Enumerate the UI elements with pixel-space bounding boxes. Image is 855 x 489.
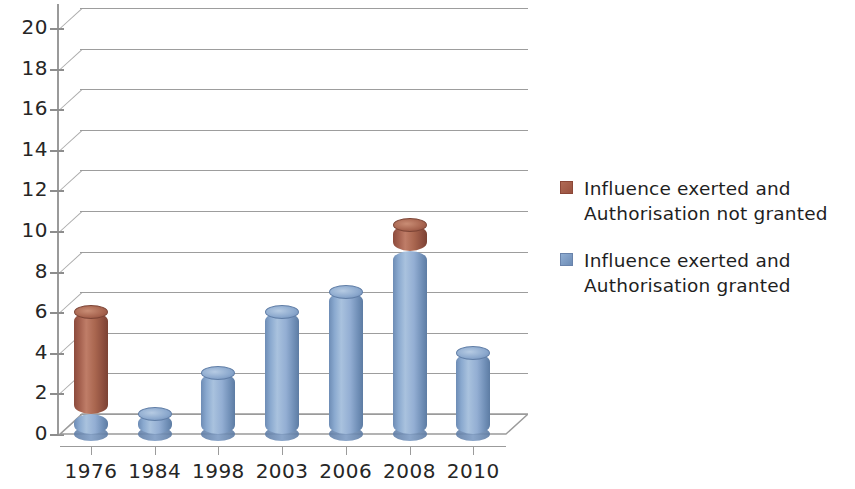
y-axis-tick-label: 8 [2, 261, 48, 281]
x-axis-tick-label: 2003 [250, 460, 314, 482]
gridline-depth-connector [60, 252, 83, 273]
bar-segment-granted[interactable] [138, 414, 172, 434]
x-axis-tick-label: 2006 [314, 460, 378, 482]
gridline [80, 8, 528, 9]
bar-2010[interactable] [456, 353, 490, 434]
bar-segment-not-granted[interactable] [74, 312, 108, 414]
legend-swatch-blue [560, 253, 573, 266]
y-axis-tick-label: 16 [2, 98, 48, 118]
gridline [80, 89, 528, 90]
bar-2006[interactable] [329, 292, 363, 434]
bar-1998[interactable] [201, 373, 235, 434]
bar-top-ellipse [138, 407, 172, 421]
x-axis-tick-label: 2010 [441, 460, 505, 482]
y-axis-tick-label: 18 [2, 58, 48, 78]
y-axis-tick-label: 20 [2, 17, 48, 37]
bar-segment-granted[interactable] [74, 414, 108, 434]
gridline-depth-connector [60, 211, 83, 232]
y-axis-tick-label: 10 [2, 220, 48, 240]
bar-segment-granted[interactable] [393, 251, 427, 434]
bar-top-ellipse [393, 218, 427, 232]
x-axis-tick-label: 1984 [123, 460, 187, 482]
bar-top-ellipse [201, 366, 235, 380]
legend-entry-1[interactable]: Influence exerted andAuthorisation not g… [560, 176, 852, 226]
bar-segment-not-granted[interactable] [393, 225, 427, 251]
y-axis: 20181614121086420 [0, 0, 48, 489]
bar-segment-granted[interactable] [265, 312, 299, 434]
y-axis-tick-label: 0 [2, 423, 48, 443]
bar-segment-granted[interactable] [201, 373, 235, 434]
legend-label-line2: Authorisation granted [584, 273, 852, 298]
gridline-depth-connector [60, 8, 83, 29]
legend-label: Influence exerted andAuthorisation grant… [584, 248, 852, 298]
gridline [80, 49, 528, 50]
gridline [80, 211, 528, 212]
bar-1976[interactable] [74, 312, 108, 434]
y-axis-tick-label: 12 [2, 179, 48, 199]
bar-top-ellipse [265, 305, 299, 319]
y-axis-tick-label: 6 [2, 301, 48, 321]
gridline [80, 333, 528, 334]
legend-entry-2[interactable]: Influence exerted andAuthorisation grant… [560, 248, 852, 298]
bar-chart: 20181614121086420 1976198419982003200620… [0, 0, 855, 489]
bar-segment-granted[interactable] [329, 292, 363, 434]
y-axis-tick-label: 4 [2, 342, 48, 362]
gridline-depth-connector [60, 130, 83, 151]
y-axis-tick-label: 2 [2, 382, 48, 402]
bar-top-ellipse [74, 305, 108, 319]
y-axis-tick-label: 14 [2, 139, 48, 159]
legend-label: Influence exerted andAuthorisation not g… [584, 176, 852, 226]
legend-label-line1: Influence exerted and [584, 248, 852, 273]
chart-legend: Influence exerted andAuthorisation not g… [560, 176, 852, 320]
x-axis-tick-label: 2008 [378, 460, 442, 482]
gridline [80, 292, 528, 293]
bar-top-ellipse [456, 346, 490, 360]
gridline-depth-connector [60, 89, 83, 110]
gridline-depth-connector [60, 171, 83, 192]
legend-label-line2: Authorisation not granted [584, 201, 852, 226]
bar-1984[interactable] [138, 414, 172, 434]
bar-top-ellipse [329, 285, 363, 299]
gridline [80, 252, 528, 253]
gridline [80, 170, 528, 171]
plot-area [58, 0, 528, 440]
bar-2008[interactable] [393, 225, 427, 434]
bar-segment-granted[interactable] [456, 353, 490, 434]
x-axis: 1976198419982003200620082010 [0, 452, 560, 486]
x-axis-tick-label: 1998 [186, 460, 250, 482]
bar-2003[interactable] [265, 312, 299, 434]
legend-swatch-red [560, 181, 573, 194]
legend-label-line1: Influence exerted and [584, 176, 852, 201]
gridline [80, 130, 528, 131]
x-axis-tick-label: 1976 [59, 460, 123, 482]
gridline-depth-connector [60, 49, 83, 70]
